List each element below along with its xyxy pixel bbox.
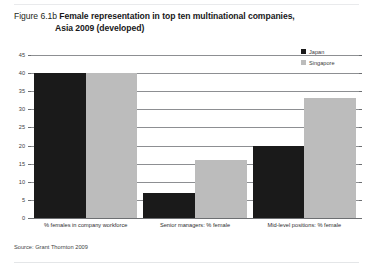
bar-singapore-group2: [195, 160, 247, 218]
gridline-0: [31, 218, 359, 219]
y-tick-label-35: 35: [0, 88, 25, 94]
footer-band: [0, 266, 373, 275]
y-tick-label-5: 5: [0, 197, 25, 203]
x-axis-label-1: % females in company workforce: [31, 222, 140, 229]
y-tick-mark-right-45: [359, 55, 362, 56]
legend-label-japan: Japan: [309, 49, 324, 55]
figure-number: Figure 6.1b: [14, 11, 57, 21]
bar-series-group: [31, 55, 359, 218]
x-axis-labels: % females in company workforceSenior man…: [31, 222, 359, 234]
y-tick-label-15: 15: [0, 161, 25, 167]
legend-swatch-japan: [301, 49, 306, 54]
top-divider: [14, 4, 359, 5]
y-tick-mark-right-40: [359, 73, 362, 74]
plot-area: 051015202530354045: [31, 55, 359, 218]
figure-title-line1: Female representation in top ten multina…: [59, 11, 294, 21]
y-tick-mark-0: [28, 218, 31, 219]
y-tick-mark-right-35: [359, 91, 362, 92]
y-tick-mark-right-15: [359, 164, 362, 165]
source-note: Source: Grant Thornton 2009: [14, 244, 88, 251]
x-axis-label-3: Mid-level positions: % female: [250, 222, 359, 229]
y-tick-mark-right-10: [359, 182, 362, 183]
bar-japan-group1: [34, 73, 86, 218]
bar-japan-group3: [253, 146, 305, 218]
y-tick-label-40: 40: [0, 70, 25, 76]
y-tick-label-20: 20: [0, 143, 25, 149]
y-tick-mark-right-25: [359, 127, 362, 128]
x-axis-label-2: Senior managers: % female: [140, 222, 249, 229]
y-tick-mark-right-0: [359, 218, 362, 219]
y-tick-mark-right-5: [359, 200, 362, 201]
y-tick-mark-right-20: [359, 146, 362, 147]
bar-singapore-group1: [86, 73, 138, 218]
bar-japan-group2: [143, 193, 195, 218]
figure-caption: Figure 6.1b Female representation in top…: [14, 10, 362, 22]
y-tick-label-25: 25: [0, 124, 25, 130]
y-tick-label-0: 0: [0, 215, 25, 221]
y-tick-label-30: 30: [0, 106, 25, 112]
figure-title-line2: Asia 2009 (developed): [55, 22, 144, 34]
y-tick-label-10: 10: [0, 179, 25, 185]
bottom-divider: [14, 262, 359, 263]
y-tick-label-45: 45: [0, 52, 25, 58]
bar-singapore-group3: [304, 98, 356, 218]
y-tick-mark-right-30: [359, 109, 362, 110]
figure-container: Figure 6.1b Female representation in top…: [0, 0, 373, 275]
